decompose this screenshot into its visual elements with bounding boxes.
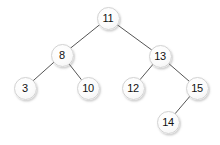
tree-edge-n13-n12: [139, 64, 153, 81]
tree-edge-n11-n8: [70, 24, 100, 48]
binary-search-tree-diagram: 11813310121514: [0, 0, 220, 145]
tree-node-15[interactable]: 15: [186, 77, 209, 100]
tree-node-11[interactable]: 11: [97, 7, 120, 30]
tree-edge-n8-n3: [32, 62, 54, 82]
tree-node-label: 10: [82, 83, 94, 94]
tree-node-label: 15: [191, 83, 203, 94]
tree-node-label: 8: [59, 50, 65, 61]
tree-node-label: 11: [103, 13, 114, 24]
tree-node-label: 3: [22, 83, 28, 94]
tree-edge-n11-n13: [116, 24, 152, 50]
tree-node-3[interactable]: 3: [14, 77, 37, 100]
tree-node-label: 12: [127, 83, 139, 94]
tree-edge-n8-n10: [68, 63, 82, 80]
tree-edge-n13-n15: [168, 63, 190, 82]
tree-node-12[interactable]: 12: [122, 77, 145, 100]
tree-node-14[interactable]: 14: [157, 111, 180, 134]
tree-node-8[interactable]: 8: [51, 44, 74, 67]
tree-node-13[interactable]: 13: [149, 45, 172, 68]
tree-node-label: 14: [162, 117, 174, 128]
tree-node-label: 13: [154, 51, 166, 62]
tree-node-10[interactable]: 10: [77, 77, 100, 100]
tree-edge-n15-n14: [174, 96, 190, 115]
